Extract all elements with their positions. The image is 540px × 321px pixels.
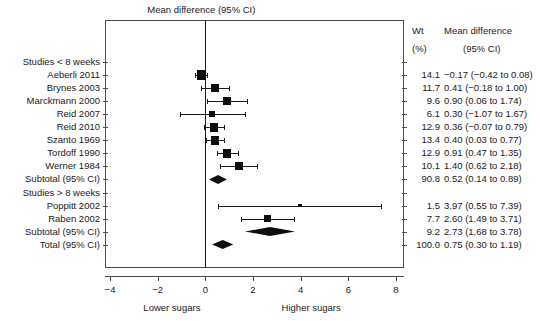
effect-value: 2.60 (1.49 to 3.71) bbox=[444, 213, 522, 224]
confidence-interval-cap bbox=[218, 204, 219, 209]
axis-tick bbox=[103, 75, 108, 76]
axis-tick bbox=[103, 179, 108, 180]
effect-marker bbox=[210, 123, 219, 132]
effect-value: 0.41 (−0.18 to 1.00) bbox=[444, 82, 527, 93]
axis-tick bbox=[103, 166, 108, 167]
axis-tick bbox=[402, 101, 407, 102]
effect-marker bbox=[211, 136, 220, 145]
effect-value: 0.36 (−0.07 to 0.79) bbox=[444, 121, 527, 132]
effect-marker bbox=[223, 97, 231, 105]
study-row-label: Szanto 1969 bbox=[47, 134, 100, 145]
x-axis-tick bbox=[158, 277, 159, 281]
effect-value: 2.73 (1.68 to 3.78) bbox=[444, 226, 522, 237]
x-axis-label-right: Higher sugars bbox=[282, 302, 341, 313]
confidence-interval-cap bbox=[247, 99, 248, 104]
axis-tick bbox=[402, 232, 407, 233]
x-axis-tick-label: 6 bbox=[334, 284, 362, 295]
axis-tick bbox=[103, 206, 108, 207]
summary-row-label: Total (95% CI) bbox=[40, 239, 100, 250]
study-row-label: Werner 1984 bbox=[45, 160, 100, 171]
effect-header-line2: (95% CI) bbox=[463, 43, 500, 54]
summary-diamond bbox=[245, 227, 295, 236]
forest-plot: Mean difference (95% CI) Studies < 8 wee… bbox=[0, 0, 540, 321]
weight-value: 10.1 bbox=[422, 160, 441, 171]
x-axis-tick bbox=[205, 277, 206, 281]
x-axis-tick-label: 2 bbox=[239, 284, 267, 295]
study-row-label: Reid 2010 bbox=[57, 121, 100, 132]
axis-tick bbox=[103, 62, 108, 63]
effect-value: 0.52 (0.14 to 0.89) bbox=[444, 173, 522, 184]
effect-marker bbox=[197, 70, 207, 80]
study-row-label: Marckmann 2000 bbox=[27, 95, 100, 106]
weight-value: 11.7 bbox=[422, 82, 440, 93]
confidence-interval-cap bbox=[206, 138, 207, 143]
weight-value: 1.5 bbox=[427, 200, 440, 211]
axis-tick bbox=[402, 179, 407, 180]
weight-value: 14.1 bbox=[422, 69, 441, 80]
confidence-interval-cap bbox=[204, 125, 205, 130]
confidence-interval-cap bbox=[224, 125, 225, 130]
confidence-interval-cap bbox=[245, 112, 246, 117]
group-heading-label: Studies < 8 weeks bbox=[23, 56, 100, 67]
weight-value: 6.1 bbox=[427, 108, 440, 119]
weight-value: 90.8 bbox=[422, 173, 441, 184]
x-axis-tick-label: −4 bbox=[96, 284, 124, 295]
effect-value: 0.91 (0.47 to 1.35) bbox=[444, 147, 522, 158]
study-row-label: Raben 2002 bbox=[48, 213, 100, 224]
summary-diamond bbox=[209, 175, 227, 184]
effect-value: 0.30 (−1.07 to 1.67) bbox=[444, 108, 527, 119]
axis-tick bbox=[103, 101, 108, 102]
effect-marker bbox=[211, 84, 219, 92]
weight-value: 9.2 bbox=[427, 226, 440, 237]
effect-value: 3.97 (0.55 to 7.39) bbox=[444, 200, 522, 211]
weight-value: 7.7 bbox=[427, 213, 440, 224]
confidence-interval-cap bbox=[180, 112, 181, 117]
study-row-label: Reid 2007 bbox=[57, 108, 100, 119]
axis-tick bbox=[402, 62, 407, 63]
axis-tick bbox=[402, 88, 407, 89]
axis-tick bbox=[103, 245, 108, 246]
x-axis-tick bbox=[110, 277, 111, 281]
group-heading-label: Studies > 8 weeks bbox=[23, 187, 100, 198]
x-axis-tick-label: −2 bbox=[144, 284, 172, 295]
confidence-interval-cap bbox=[229, 86, 230, 91]
x-axis-label-left: Lower sugars bbox=[143, 302, 200, 313]
weight-value: 9.6 bbox=[427, 95, 440, 106]
axis-tick bbox=[402, 206, 407, 207]
axis-tick bbox=[103, 114, 108, 115]
axis-tick bbox=[103, 193, 108, 194]
axis-tick bbox=[402, 114, 407, 115]
confidence-interval-cap bbox=[207, 99, 208, 104]
confidence-interval-cap bbox=[294, 217, 295, 222]
effect-marker bbox=[209, 111, 215, 117]
weight-header-line1: Wt bbox=[412, 25, 424, 36]
weight-value: 12.9 bbox=[422, 121, 441, 132]
x-axis-tick bbox=[253, 277, 254, 281]
confidence-interval-cap bbox=[257, 164, 258, 169]
x-axis-line bbox=[105, 276, 404, 277]
x-axis-tick bbox=[348, 277, 349, 281]
chart-title: Mean difference (95% CI) bbox=[147, 4, 255, 15]
axis-tick bbox=[103, 127, 108, 128]
x-axis-tick-label: 0 bbox=[191, 284, 219, 295]
confidence-interval-cap bbox=[220, 164, 221, 169]
confidence-interval-cap bbox=[217, 151, 218, 156]
axis-tick bbox=[402, 153, 407, 154]
x-axis-tick bbox=[396, 277, 397, 281]
weight-header-line2: (%) bbox=[412, 43, 427, 54]
axis-tick bbox=[103, 219, 108, 220]
weight-value: 13.4 bbox=[422, 134, 441, 145]
study-row-label: Brynes 2003 bbox=[47, 82, 100, 93]
effect-header-line1: Mean difference bbox=[444, 25, 512, 36]
effect-value: 1.40 (0.62 to 2.18) bbox=[444, 160, 522, 171]
axis-tick bbox=[103, 140, 108, 141]
axis-tick bbox=[402, 166, 407, 167]
null-effect-line bbox=[205, 20, 206, 268]
confidence-interval-cap bbox=[238, 151, 239, 156]
effect-value: 0.40 (0.03 to 0.77) bbox=[444, 134, 522, 145]
study-row-label: Tordoff 1990 bbox=[47, 147, 100, 158]
summary-row-label: Subtotal (95% CI) bbox=[25, 173, 100, 184]
axis-tick bbox=[402, 127, 407, 128]
summary-diamond bbox=[212, 240, 233, 249]
axis-tick bbox=[103, 153, 108, 154]
